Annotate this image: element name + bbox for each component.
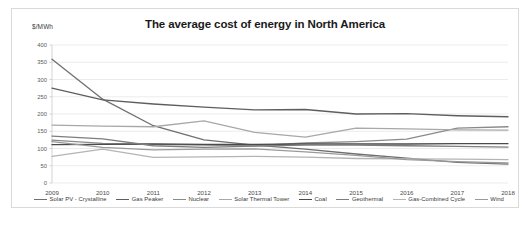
legend-item-label: Coal: [314, 196, 326, 202]
series-line: [52, 88, 508, 117]
legend-item[interactable]: Geothermal: [336, 196, 383, 202]
legend-line-icon: [116, 199, 129, 200]
legend-item-label: Nuclear: [188, 196, 209, 202]
legend-item[interactable]: Gas Peaker: [116, 196, 163, 202]
chart-legend: Solar PV - CrystallineGas PeakerNuclearS…: [34, 193, 504, 205]
legend-line-icon: [475, 199, 488, 200]
legend-item[interactable]: Gas-Combined Cycle: [393, 196, 465, 202]
legend-item[interactable]: Solar Thermal Tower: [219, 196, 290, 202]
legend-line-icon: [299, 199, 312, 200]
y-tick-label: 250: [37, 94, 47, 100]
series-line: [52, 136, 508, 147]
legend-line-icon: [34, 199, 47, 200]
legend-item[interactable]: Nuclear: [173, 196, 209, 202]
series-line: [52, 121, 508, 137]
legend-item-label: Solar Thermal Tower: [234, 196, 289, 202]
legend-line-icon: [173, 199, 186, 200]
plot-area: 400350300250200150100500 200920102011201…: [12, 9, 520, 209]
legend-item-label: Solar PV - Crystalline: [50, 196, 107, 202]
legend-item[interactable]: Wind: [475, 196, 504, 202]
y-tick-label: 50: [41, 163, 47, 169]
legend-item-label: Wind: [490, 196, 504, 202]
legend-item-label: Gas-Combined Cycle: [408, 196, 465, 202]
series-line: [52, 144, 508, 145]
legend-line-icon: [393, 199, 406, 200]
y-tick-label: 300: [37, 77, 47, 83]
legend-line-icon: [336, 199, 349, 200]
y-tick-label: 0: [44, 180, 47, 186]
legend-item[interactable]: Solar PV - Crystalline: [34, 196, 107, 202]
legend-item-label: Gas Peaker: [132, 196, 164, 202]
y-tick-label: 100: [37, 146, 47, 152]
chart-card: The average cost of energy in North Amer…: [11, 8, 519, 208]
y-tick-label: 200: [37, 111, 47, 117]
y-tick-label: 350: [37, 59, 47, 65]
legend-item-label: Geothermal: [352, 196, 383, 202]
legend-item[interactable]: Coal: [299, 196, 327, 202]
y-tick-labels-group: 400350300250200150100500: [37, 42, 47, 186]
legend-line-icon: [219, 199, 232, 200]
y-tick-label: 400: [37, 42, 47, 48]
chart-svg: 400350300250200150100500 200920102011201…: [12, 9, 520, 209]
y-tick-label: 150: [37, 128, 47, 134]
gridlines-group: [50, 45, 509, 183]
